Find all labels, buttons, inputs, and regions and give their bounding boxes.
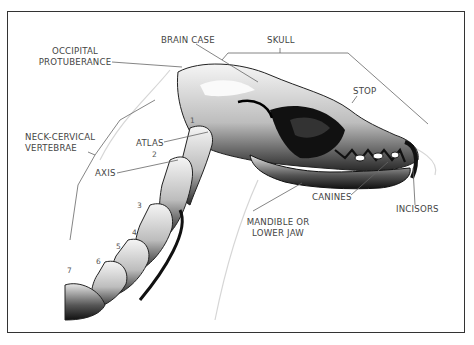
label-axis: AXIS — [95, 168, 116, 179]
occipital-line2: PROTUBERANCE — [34, 57, 116, 68]
vertebra-number-7: 7 — [67, 266, 72, 275]
vertebra-number-5: 5 — [116, 242, 121, 251]
mandible-line2: LOWER JAW — [238, 228, 318, 239]
occipital-leader — [112, 62, 182, 67]
vertebra-number-2: 2 — [152, 150, 157, 159]
label-atlas: ATLAS — [136, 138, 164, 149]
cervical-vertebrae — [65, 126, 213, 320]
vertebra-number-1: 1 — [190, 116, 195, 125]
label-occipital-protuberance: OCCIPITAL PROTUBERANCE — [34, 46, 116, 68]
label-stop: STOP — [353, 86, 376, 97]
label-mandible-lower-jaw: MANDIBLE OR LOWER JAW — [238, 217, 318, 239]
neck-line1: NECK-CERVICAL — [25, 132, 95, 143]
label-canines: CANINES — [312, 192, 352, 203]
stop-leader — [352, 96, 357, 103]
mandible-line1: MANDIBLE OR — [238, 217, 318, 228]
vertebra-number-4: 4 — [132, 228, 137, 237]
vertebra-number-3: 3 — [137, 201, 142, 210]
neck-line2: VERTEBRAE — [25, 143, 95, 154]
label-brain-case: BRAIN CASE — [161, 35, 215, 46]
label-incisors: INCISORS — [396, 204, 439, 215]
vertebra-number-6: 6 — [96, 257, 101, 266]
mandible-leader — [253, 183, 302, 211]
occipital-line1: OCCIPITAL — [34, 46, 116, 57]
label-skull: SKULL — [267, 35, 295, 46]
label-neck-cervical-vertebrae: NECK-CERVICAL VERTEBRAE — [25, 132, 95, 154]
